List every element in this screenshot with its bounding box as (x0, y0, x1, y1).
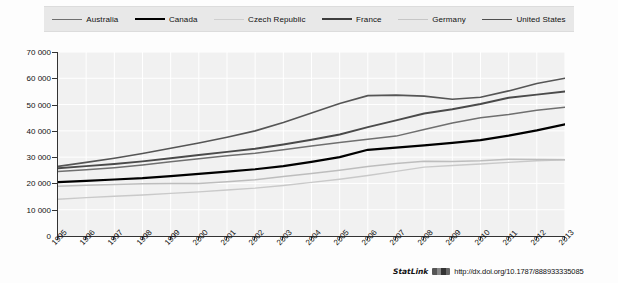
legend-item-label: United States (516, 15, 565, 24)
y-axis-tick-label: 60 000 (27, 74, 51, 83)
statlink-label: StatLink (393, 267, 428, 276)
chart-legend: AustraliaCanadaCzech RepublicFranceGerma… (44, 6, 574, 32)
legend-swatch-icon (214, 19, 244, 20)
statlink-footer: StatLink http://dx.doi.org/10.1787/88893… (393, 264, 584, 278)
legend-item-label: Germany (432, 15, 466, 24)
legend-swatch-icon (398, 19, 428, 20)
y-axis-tick-label: 10 000 (27, 205, 51, 214)
legend-swatch-icon (135, 18, 165, 20)
chart-lines (58, 52, 565, 236)
legend-item-label: Czech Republic (248, 15, 305, 24)
statlink-barcode-icon (432, 268, 450, 275)
legend-item-united-states[interactable]: United States (482, 15, 565, 24)
legend-swatch-icon (322, 18, 352, 20)
chart-screenshot: AustraliaCanadaCzech RepublicFranceGerma… (0, 0, 618, 283)
y-axis-tick-label: 40 000 (27, 126, 51, 135)
legend-swatch-icon (52, 19, 82, 20)
y-axis-tick-label: 20 000 (27, 179, 51, 188)
plot-area (57, 52, 565, 237)
legend-item-label: Australia (86, 15, 118, 24)
statlink-url[interactable]: http://dx.doi.org/10.1787/888933335085 (454, 267, 583, 276)
legend-item-france[interactable]: France (322, 15, 382, 24)
legend-swatch-icon (482, 19, 512, 20)
legend-item-canada[interactable]: Canada (135, 15, 198, 24)
legend-item-czech-republic[interactable]: Czech Republic (214, 15, 305, 24)
y-axis-labels: 010 00020 00030 00040 00050 00060 00070 … (0, 52, 51, 236)
legend-item-germany[interactable]: Germany (398, 15, 466, 24)
legend-item-label: France (356, 15, 382, 24)
y-axis-tick-label: 50 000 (27, 100, 51, 109)
legend-item-label: Canada (169, 15, 198, 24)
y-axis-tick-label: 30 000 (27, 153, 51, 162)
legend-item-australia[interactable]: Australia (52, 15, 118, 24)
y-axis-tick-label: 70 000 (27, 48, 51, 57)
